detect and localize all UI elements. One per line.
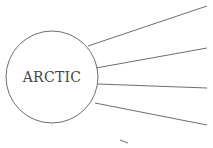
center-node-label: ARCTIC (6, 68, 98, 86)
branch-lines (88, 6, 207, 125)
partial-branch-line (120, 140, 128, 143)
branch-line-2 (96, 48, 207, 68)
branch-line-4 (95, 103, 207, 125)
branch-line-1 (88, 6, 207, 46)
branch-line-3 (98, 84, 207, 88)
